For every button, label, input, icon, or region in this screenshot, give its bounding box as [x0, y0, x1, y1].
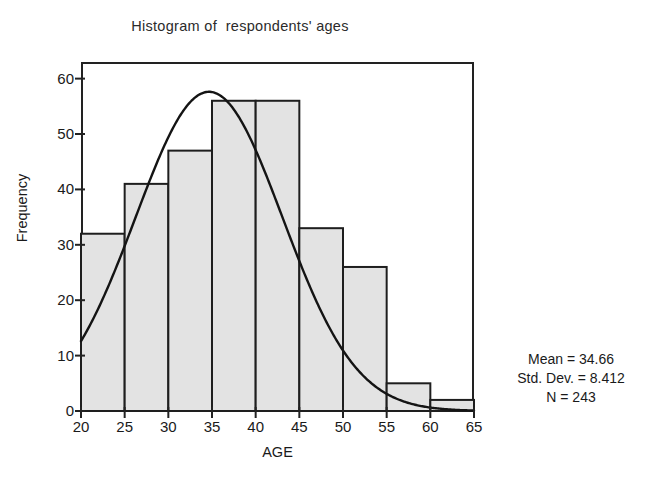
x-axis-tick-label: 60 — [410, 419, 450, 434]
y-axis-tick-label: 40 — [46, 181, 74, 196]
x-axis-tick-label: 65 — [454, 419, 494, 434]
y-axis-tick-label: 60 — [46, 71, 74, 86]
x-axis-tick-label: 20 — [61, 419, 101, 434]
plot-area-frame — [81, 62, 474, 411]
statistics-annotation: Mean = 34.66 Std. Dev. = 8.412 N = 243 — [496, 350, 646, 407]
y-axis-tick-label: 50 — [46, 126, 74, 141]
std-dev-value: Std. Dev. = 8.412 — [496, 369, 646, 388]
y-axis-tick-label: 20 — [46, 292, 74, 307]
mean-value: Mean = 34.66 — [496, 350, 646, 369]
x-axis-tick-label: 50 — [323, 419, 363, 434]
x-axis-tick-label: 55 — [367, 419, 407, 434]
x-axis-tick-label: 25 — [105, 419, 145, 434]
y-axis-tick-label: 10 — [46, 348, 74, 363]
x-axis-tick-label: 45 — [279, 419, 319, 434]
sample-size-value: N = 243 — [496, 388, 646, 407]
x-axis-tick-label: 35 — [192, 419, 232, 434]
x-axis-title: AGE — [81, 444, 474, 460]
x-axis-tick-label: 30 — [148, 419, 188, 434]
y-axis-title: Frequency — [14, 148, 30, 268]
y-axis-tick-label: 30 — [46, 237, 74, 252]
y-axis-tick-label: 0 — [46, 403, 74, 418]
histogram-figure: Histogram of respondents' ages 010203040… — [0, 0, 659, 495]
x-axis-tick-label: 40 — [236, 419, 276, 434]
